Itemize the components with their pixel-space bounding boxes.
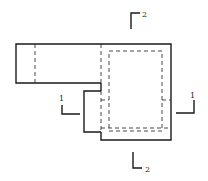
section-arrow-bottom [133, 152, 142, 168]
section-marker-1-left: 1 [59, 94, 80, 114]
small-protrusion-outline [84, 91, 101, 132]
section-marker-2-bottom: 2 [133, 152, 150, 174]
small-protrusion [84, 91, 101, 132]
section-label-top: 2 [142, 10, 147, 19]
technical-drawing: 2 2 1 1 [0, 0, 208, 181]
section-marker-2-top: 2 [131, 10, 147, 29]
left-wing [16, 44, 101, 83]
section-arrow-right [176, 100, 194, 113]
section-label-right: 1 [190, 91, 195, 100]
section-label-bottom: 2 [145, 165, 150, 174]
section-marker-1-right: 1 [176, 91, 195, 113]
section-arrow-top [131, 13, 140, 29]
section-label-left: 1 [59, 94, 64, 103]
left-wing-outline [16, 44, 101, 83]
main-body [101, 44, 171, 140]
section-arrow-left [62, 105, 80, 114]
main-body-outline [101, 44, 171, 140]
inner-hidden-rect [109, 51, 162, 131]
